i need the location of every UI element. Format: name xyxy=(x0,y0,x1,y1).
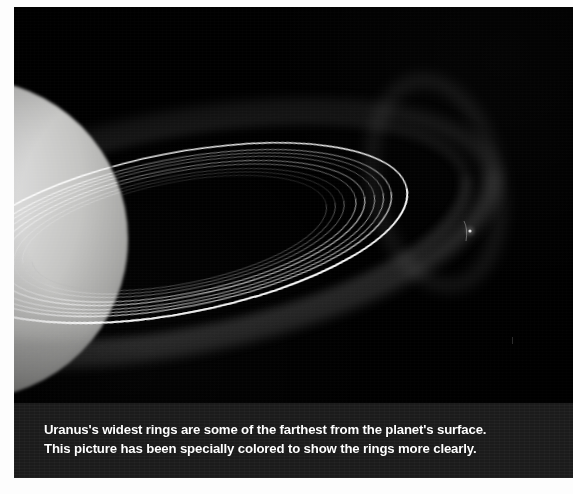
page-bottom-margin xyxy=(0,478,573,494)
page-top-margin xyxy=(0,0,573,7)
page-left-margin xyxy=(0,0,14,494)
uranus-ring-scene xyxy=(14,7,573,403)
astronomy-photograph xyxy=(14,7,573,403)
caption-band: Uranus's widest rings are some of the fa… xyxy=(14,403,573,478)
caption-line-1: Uranus's widest rings are some of the fa… xyxy=(44,421,544,440)
dust-speck xyxy=(512,337,513,344)
figure-caption: Uranus's widest rings are some of the fa… xyxy=(44,421,544,458)
figure-page: Uranus's widest rings are some of the fa… xyxy=(0,0,573,494)
caption-line-2: This picture has been specially colored … xyxy=(44,440,544,459)
